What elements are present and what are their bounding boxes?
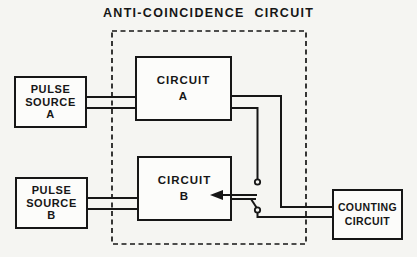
circuit-a-box: CIRCUIT A <box>135 56 232 121</box>
pulse-source-a-label-line2: SOURCE <box>25 96 76 109</box>
pulse-source-b-label-line3: B <box>47 209 56 222</box>
circuit-a-label-line1: CIRCUIT <box>157 73 211 89</box>
diagram-title: ANTI-COINCIDENCE CIRCUIT <box>103 6 313 20</box>
pulse-source-a-label-line1: PULSE <box>31 83 71 96</box>
circuit-b-label-line2: B <box>180 189 189 205</box>
circuit-b-box: CIRCUIT B <box>137 156 232 221</box>
switch-contact-top-icon <box>255 179 260 184</box>
pulse-source-b-label-line2: SOURCE <box>26 197 77 210</box>
wire-ca-to-switch <box>231 108 258 179</box>
pulse-source-b-box: PULSE SOURCE B <box>15 177 88 229</box>
block-diagram: ANTI-COINCIDENCE CIRCUIT PULSE SOURCE A … <box>0 0 417 257</box>
pulse-source-a-box: PULSE SOURCE A <box>14 76 87 128</box>
pulse-source-a-label-line3: A <box>46 108 55 121</box>
circuit-a-label-line2: A <box>179 89 188 105</box>
pulse-source-b-label-line1: PULSE <box>32 184 72 197</box>
counting-circuit-label-line1: COUNTING <box>338 201 397 214</box>
counting-circuit-box: COUNTING CIRCUIT <box>332 189 403 240</box>
switch-contact-bottom-icon <box>255 207 260 212</box>
switch-lever <box>251 199 257 208</box>
wire-ca-to-counting <box>231 96 332 207</box>
wire-switch-to-counting <box>258 213 333 218</box>
counting-circuit-label-line2: CIRCUIT <box>345 215 390 228</box>
circuit-b-label-line1: CIRCUIT <box>158 173 212 189</box>
